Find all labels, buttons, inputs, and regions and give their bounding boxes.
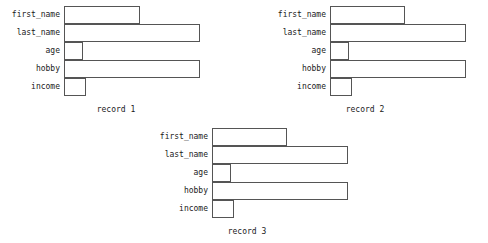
bar-income — [330, 78, 352, 96]
bar-track — [64, 42, 232, 60]
bar-income — [212, 200, 234, 218]
bar-age — [330, 42, 349, 60]
bar-track — [64, 78, 232, 96]
bar-track — [212, 146, 366, 164]
bar-track — [330, 78, 484, 96]
bar-label-first-name: first_name — [0, 6, 64, 24]
bar-label-age: age — [128, 164, 212, 182]
bar-hobby — [212, 182, 348, 200]
bar-last-name — [212, 146, 348, 164]
bar-row: first_name — [246, 6, 484, 24]
bar-rows: first_name last_name age hobby income — [128, 128, 366, 218]
bar-row: age — [128, 164, 366, 182]
record-panel-1: first_name last_name age hobby income — [0, 6, 232, 114]
bar-rows: first_name last_name age hobby income — [246, 6, 484, 96]
bar-label-income: income — [128, 200, 212, 218]
bar-age — [64, 42, 83, 60]
bar-row: age — [0, 42, 232, 60]
bar-track — [212, 182, 366, 200]
bar-track — [64, 60, 232, 78]
bar-track — [330, 24, 484, 42]
bar-label-age: age — [246, 42, 330, 60]
bar-row: age — [246, 42, 484, 60]
bar-row: income — [128, 200, 366, 218]
bar-age — [212, 164, 231, 182]
record-caption: record 3 — [128, 227, 366, 236]
bar-track — [64, 24, 232, 42]
bar-track — [330, 42, 484, 60]
bar-track — [212, 200, 366, 218]
bar-track — [212, 164, 366, 182]
bar-rows: first_name last_name age hobby income — [0, 6, 232, 96]
bar-row: last_name — [246, 24, 484, 42]
bar-row: last_name — [128, 146, 366, 164]
record-caption: record 2 — [246, 105, 484, 114]
record-panel-2: first_name last_name age hobby income — [246, 6, 484, 114]
bar-last-name — [330, 24, 466, 42]
bar-first-name — [212, 128, 287, 146]
bar-label-hobby: hobby — [246, 60, 330, 78]
bar-income — [64, 78, 86, 96]
bar-hobby — [64, 60, 200, 78]
bar-label-income: income — [0, 78, 64, 96]
bar-row: first_name — [0, 6, 232, 24]
bar-first-name — [64, 6, 140, 24]
bar-label-last-name: last_name — [0, 24, 64, 42]
bar-track — [330, 60, 484, 78]
bar-label-hobby: hobby — [128, 182, 212, 200]
record-panel-3: first_name last_name age hobby income — [128, 128, 366, 236]
bar-row: hobby — [0, 60, 232, 78]
record-caption: record 1 — [0, 105, 232, 114]
bar-row: income — [246, 78, 484, 96]
bar-track — [212, 128, 366, 146]
bar-hobby — [330, 60, 466, 78]
bar-row: hobby — [246, 60, 484, 78]
bar-label-hobby: hobby — [0, 60, 64, 78]
bar-label-last-name: last_name — [128, 146, 212, 164]
bar-first-name — [330, 6, 405, 24]
bar-label-first-name: first_name — [128, 128, 212, 146]
bar-label-first-name: first_name — [246, 6, 330, 24]
bar-row: income — [0, 78, 232, 96]
bar-row: first_name — [128, 128, 366, 146]
bar-label-income: income — [246, 78, 330, 96]
bar-track — [330, 6, 484, 24]
bar-row: hobby — [128, 182, 366, 200]
bar-last-name — [64, 24, 200, 42]
bar-track — [64, 6, 232, 24]
bar-label-age: age — [0, 42, 64, 60]
bar-label-last-name: last_name — [246, 24, 330, 42]
bar-row: last_name — [0, 24, 232, 42]
